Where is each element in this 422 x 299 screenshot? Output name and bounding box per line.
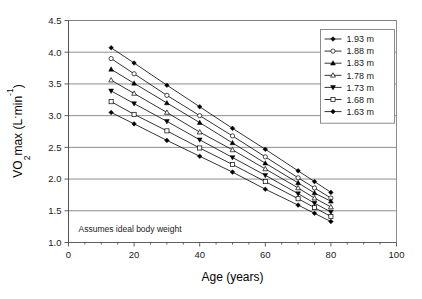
data-point-marker — [132, 112, 136, 116]
data-point-marker — [263, 180, 267, 184]
data-point-marker — [329, 214, 333, 218]
data-point-marker — [296, 176, 300, 180]
x-tick-label-0: 0 — [66, 249, 71, 260]
y-tick-label-2.5: 2.5 — [48, 142, 61, 153]
x-tick-label-20: 20 — [129, 249, 140, 260]
x-axis-title-text: Age (years) — [201, 270, 263, 284]
data-point-marker — [109, 56, 113, 60]
y-tick-label-3: 3.0 — [48, 110, 61, 121]
data-point-marker — [165, 93, 169, 97]
legend-item-label: 1.83 m — [347, 58, 375, 68]
data-point-marker — [132, 72, 136, 76]
x-tick-label-80: 80 — [326, 249, 337, 260]
x-tick-label-60: 60 — [260, 249, 271, 260]
legend-item-label: 1.63 m — [347, 107, 375, 117]
data-point-marker — [198, 146, 202, 150]
y-tick-label-3.5: 3.5 — [48, 78, 61, 89]
vo2max-age-line-chart: 1.01.52.02.53.03.54.04.5 020406080100 As… — [0, 0, 422, 299]
data-point-marker — [312, 206, 316, 210]
legend-item-label: 1.68 m — [347, 95, 375, 105]
y-tick-label-4.5: 4.5 — [48, 15, 61, 26]
data-point-marker — [230, 134, 234, 138]
data-point-marker — [230, 162, 234, 166]
y-tick-label-2: 2.0 — [48, 173, 61, 184]
legend-item-label: 1.78 m — [347, 71, 375, 81]
data-point-marker — [109, 100, 113, 104]
data-point-marker — [331, 97, 335, 101]
x-tick-label-40: 40 — [194, 249, 205, 260]
data-point-marker — [263, 155, 267, 159]
data-point-marker — [312, 186, 316, 190]
data-point-marker — [296, 197, 300, 201]
chart-figure: 1.01.52.02.53.03.54.04.5 020406080100 As… — [0, 0, 422, 299]
x-tick-label-100: 100 — [389, 249, 405, 260]
annotation-text: Assumes ideal body weight — [79, 224, 183, 234]
legend-item-label: 1.88 m — [347, 46, 375, 56]
y-tick-label-4: 4.0 — [48, 47, 61, 58]
legend-item-label: 1.93 m — [347, 34, 375, 44]
data-point-marker — [165, 129, 169, 133]
y-tick-label-1: 1.0 — [48, 237, 61, 248]
legend-item-label: 1.73 m — [347, 83, 375, 93]
data-point-marker — [331, 49, 335, 53]
chart-annotation: Assumes ideal body weight — [79, 224, 183, 234]
y-tick-label-1.5: 1.5 — [48, 205, 61, 216]
x-axis-title: Age (years) — [201, 270, 263, 284]
chart-legend: 1.93 m1.88 m1.83 m1.78 m1.73 m1.68 m1.63… — [321, 30, 395, 124]
data-point-marker — [198, 114, 202, 118]
